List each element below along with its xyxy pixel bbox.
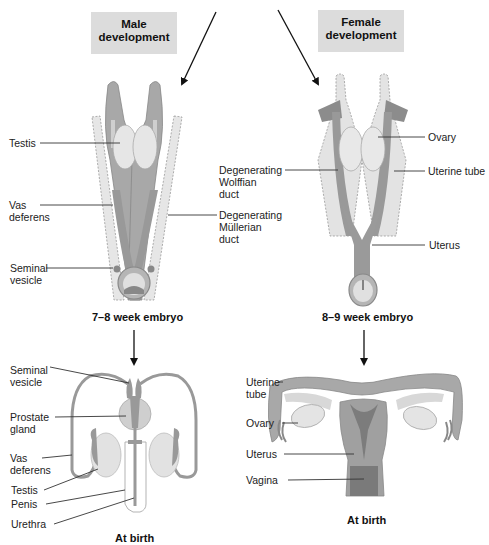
male-box-line1: Male	[91, 18, 177, 31]
male-birth-illustration	[72, 330, 196, 512]
arrow-to-male	[182, 12, 216, 84]
label-uterus-embryo: Uterus	[429, 239, 460, 251]
arrow-to-female	[278, 10, 318, 84]
female-birth-illustration	[268, 330, 462, 496]
label-seminal-vesicle-embryo: Seminal vesicle	[10, 262, 48, 286]
label-urethra: Urethra	[11, 518, 46, 530]
label-penis: Penis	[11, 498, 37, 510]
male-embryo-illustration	[92, 82, 182, 301]
label-ovary-embryo: Ovary	[428, 131, 456, 143]
female-embryo-illustration	[318, 74, 408, 306]
label-seminal-vesicle-birth: Seminal vesicle	[10, 364, 48, 388]
female-box-line2: development	[318, 29, 404, 42]
label-uterine-tube-embryo: Uterine tube	[428, 165, 485, 177]
caption-male-birth: At birth	[115, 532, 154, 544]
label-vas-deferens-embryo: Vas deferens	[9, 199, 50, 223]
male-box-line2: development	[91, 31, 177, 44]
label-testis-birth: Testis	[11, 484, 38, 496]
label-uterus-birth: Uterus	[246, 448, 277, 460]
caption-female-birth: At birth	[347, 514, 386, 526]
male-development-box: Male development	[91, 12, 177, 54]
label-degenerating-wolffian: Degenerating Wolffian duct	[219, 164, 282, 200]
label-testis-embryo: Testis	[9, 137, 36, 149]
diagram-canvas	[0, 0, 489, 545]
label-degenerating-mullerian: Degenerating Müllerian duct	[219, 209, 282, 245]
female-box-line1: Female	[318, 16, 404, 29]
caption-male-embryo: 7–8 week embryo	[92, 311, 183, 323]
caption-female-embryo: 8–9 week embryo	[322, 311, 413, 323]
label-ovary-birth: Ovary	[246, 417, 274, 429]
label-prostate-gland: Prostate gland	[10, 411, 49, 435]
female-development-box: Female development	[318, 10, 404, 52]
label-uterine-tube-birth: Uterine tube	[246, 376, 280, 400]
label-vas-deferens-birth: Vas deferens	[10, 452, 51, 476]
label-vagina: Vagina	[246, 474, 278, 486]
